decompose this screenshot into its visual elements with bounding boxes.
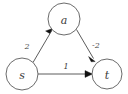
graph-canvas: 2 -2 1 a s t — [0, 0, 128, 94]
edge-s-t-arrowhead — [85, 71, 93, 78]
node-t-label: t — [105, 69, 110, 82]
edge-a-t-line — [77, 30, 94, 59]
edge-a-t: -2 — [77, 30, 100, 62]
node-t[interactable]: t — [92, 59, 122, 89]
node-a[interactable]: a — [48, 3, 80, 35]
edge-a-t-weight: -2 — [92, 41, 100, 50]
node-s-label: s — [19, 69, 25, 82]
edge-s-a-weight: 2 — [23, 42, 29, 51]
graph-figure: 2 -2 1 a s t — [0, 0, 128, 94]
edge-s-a-line — [33, 31, 52, 63]
edge-s-t-weight: 1 — [63, 62, 68, 71]
edge-s-t: 1 — [38, 62, 93, 78]
edge-s-a: 2 — [23, 28, 53, 62]
node-s[interactable]: s — [6, 58, 38, 90]
node-a-label: a — [61, 14, 68, 27]
edge-a-t-arrowhead — [89, 57, 96, 62]
